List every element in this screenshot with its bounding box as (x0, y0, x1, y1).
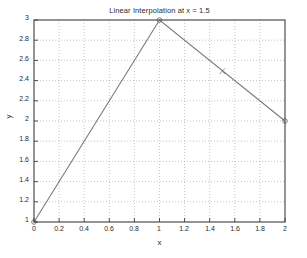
ytick-label: 2.8 (3, 35, 29, 42)
xtick-label: 1.4 (200, 225, 220, 232)
xtick-label: 1 (149, 225, 169, 232)
ytick-label: 1.2 (3, 196, 29, 203)
xtick-label: 0 (24, 225, 44, 232)
ytick-label: 1 (3, 216, 29, 223)
xtick-label: 0.8 (124, 225, 144, 232)
y-axis-label: y (4, 105, 13, 129)
ytick-label: 3 (3, 14, 29, 21)
xtick-label: 2 (275, 225, 295, 232)
x-axis-label: x (34, 238, 285, 247)
interpolated-point-marker (219, 68, 225, 74)
ytick-label: 1.6 (3, 156, 29, 163)
xtick-label: 0.4 (74, 225, 94, 232)
figure-canvas: Linear Interpolation at x = 1.5 (0, 0, 307, 258)
ytick-label: 2.2 (3, 95, 29, 102)
grid-horizontal (34, 40, 285, 202)
ytick-label: 1.4 (3, 176, 29, 183)
xtick-label: 0.6 (99, 225, 119, 232)
ytick-label: 2.4 (3, 75, 29, 82)
xtick-label: 1.8 (250, 225, 270, 232)
xtick-label: 0.2 (49, 225, 69, 232)
ytick-label: 1.8 (3, 135, 29, 142)
xtick-label: 1.2 (174, 225, 194, 232)
ytick-label: 2.6 (3, 55, 29, 62)
plot-area (0, 0, 307, 258)
xtick-label: 1.6 (225, 225, 245, 232)
